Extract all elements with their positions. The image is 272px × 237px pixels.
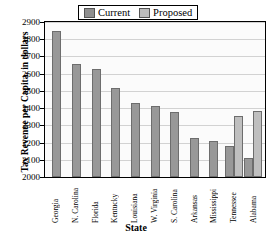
current-swatch-icon xyxy=(84,8,95,18)
x-tick-label: Kentucky xyxy=(111,179,119,223)
bar-group xyxy=(67,22,87,177)
bar-current xyxy=(225,146,234,177)
x-tick: Florida xyxy=(86,179,106,223)
x-tick-label: N. Carolina xyxy=(72,179,80,223)
x-tick-label: Georgia xyxy=(52,179,60,223)
y-tick-label: 2900 xyxy=(22,18,40,27)
bar-proposed xyxy=(234,116,243,177)
bar-current xyxy=(170,112,179,177)
x-tick: Louisiana xyxy=(125,179,145,223)
bar-current xyxy=(111,88,120,177)
bar-current xyxy=(131,103,140,177)
bar-group xyxy=(145,22,165,177)
bar-current xyxy=(52,31,61,177)
y-tick-label: 2000 xyxy=(22,173,40,182)
y-tick-label: 2800 xyxy=(22,35,40,44)
y-tick-label: 2100 xyxy=(22,155,40,164)
x-tick: Mississippi xyxy=(205,179,225,223)
bar-group xyxy=(165,22,185,177)
plot-area xyxy=(44,21,266,178)
y-axis-ticks: 2900280027002600250024002300220021002000 xyxy=(0,21,44,178)
y-tick-label: 2200 xyxy=(22,138,40,147)
bar-series-container xyxy=(45,22,265,177)
bar-current xyxy=(92,69,101,177)
bar-group xyxy=(106,22,126,177)
x-tick: S. Carolina xyxy=(165,179,185,223)
bar-current xyxy=(244,158,253,177)
bar-group xyxy=(47,22,67,177)
x-tick-label: Alabama xyxy=(250,179,258,223)
y-tick-label: 2600 xyxy=(22,69,40,78)
bar-group xyxy=(184,22,204,177)
bar-chart: Current Proposed Tax Revenue per Capita,… xyxy=(0,0,272,237)
x-tick-label: Mississippi xyxy=(210,179,218,223)
bar-group xyxy=(126,22,146,177)
bar-group xyxy=(243,22,263,177)
bar-current xyxy=(209,141,218,177)
x-tick: Tennessee xyxy=(224,179,244,223)
x-tick: Kentucky xyxy=(105,179,125,223)
x-tick-label: Tennessee xyxy=(230,179,238,223)
bar-current xyxy=(72,64,81,177)
legend-label-current: Current xyxy=(98,7,130,18)
x-tick-label: S. Carolina xyxy=(171,179,179,223)
legend-entry-proposed: Proposed xyxy=(139,7,192,18)
legend-label-proposed: Proposed xyxy=(153,7,192,18)
y-tick-label: 2400 xyxy=(22,104,40,113)
bar-group xyxy=(86,22,106,177)
bar-group xyxy=(204,22,224,177)
proposed-swatch-icon xyxy=(139,8,150,18)
x-tick: Alabama xyxy=(244,179,264,223)
legend-entry-current: Current xyxy=(84,7,130,18)
x-axis-ticks: GeorgiaN. CarolinaFloridaKentuckyLouisia… xyxy=(44,179,266,223)
x-tick: N. Carolina xyxy=(66,179,86,223)
y-tick-label: 2300 xyxy=(22,121,40,130)
y-tick-label: 2700 xyxy=(22,52,40,61)
bar-proposed xyxy=(253,111,262,177)
bar-current xyxy=(151,106,160,177)
x-axis-title: State xyxy=(0,222,272,233)
x-tick: W. Virginia xyxy=(145,179,165,223)
y-tick-label: 2500 xyxy=(22,86,40,95)
bar-group xyxy=(224,22,244,177)
chart-legend: Current Proposed xyxy=(78,5,198,20)
x-tick-label: Louisiana xyxy=(131,179,139,223)
bar-current xyxy=(190,138,199,177)
x-tick: Arkansas xyxy=(185,179,205,223)
x-tick-label: W. Virginia xyxy=(151,179,159,223)
x-tick-label: Arkansas xyxy=(191,179,199,223)
x-tick-label: Florida xyxy=(92,179,100,223)
x-tick: Georgia xyxy=(46,179,66,223)
